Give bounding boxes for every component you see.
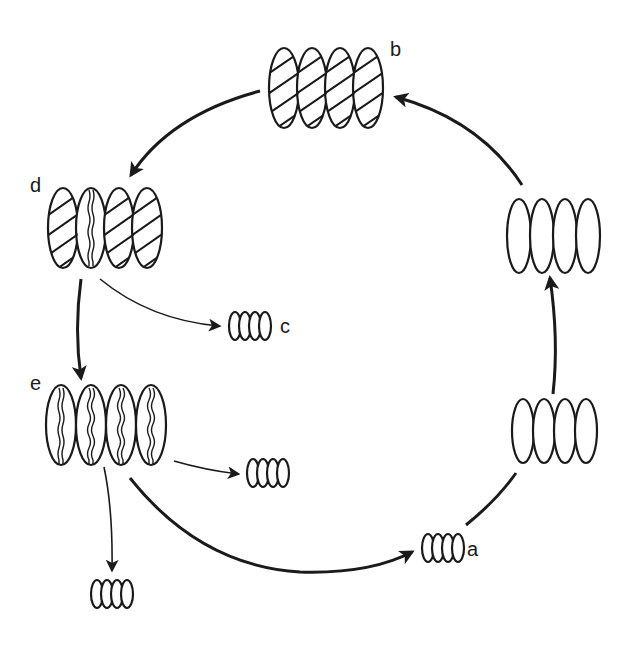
cell <box>48 188 78 268</box>
cell <box>121 580 133 608</box>
colony-growth-2 <box>507 199 600 273</box>
label-d: d <box>30 174 41 196</box>
label-e: e <box>30 372 41 394</box>
label-b: b <box>390 38 401 60</box>
cell <box>533 399 555 463</box>
cell <box>452 534 464 562</box>
arrow-b-to-d <box>131 91 260 175</box>
colony-a: a <box>422 534 479 562</box>
arrow-e-to-offspring-2 <box>104 467 112 570</box>
colony-e-offspring-2 <box>91 580 133 608</box>
arrow-growth-1-to-growth-2 <box>550 278 555 394</box>
cell <box>507 199 531 273</box>
arrow-growth-2-to-b <box>396 97 522 185</box>
arrow-a-to-growth-1 <box>466 473 516 525</box>
arrow-e-to-offspring-1 <box>174 461 238 474</box>
colony-c: c <box>229 312 290 340</box>
label-a: a <box>467 538 479 560</box>
colony-e: e <box>30 372 166 465</box>
cell <box>46 385 76 465</box>
cell <box>554 399 576 463</box>
cell <box>512 399 534 463</box>
life-cycle-diagram: b d c e <box>0 0 633 648</box>
cell <box>553 199 577 273</box>
arrow-e-to-a <box>130 478 412 572</box>
colony-d: d <box>30 174 168 278</box>
cell <box>576 199 600 273</box>
arrow-d-to-c <box>100 279 219 326</box>
cell <box>575 399 597 463</box>
cell <box>530 199 554 273</box>
cell <box>76 188 106 268</box>
label-c: c <box>280 315 290 337</box>
colony-e-offspring-1 <box>247 459 289 487</box>
cell <box>104 188 134 268</box>
cell <box>132 188 162 268</box>
colony-b: b <box>262 38 401 138</box>
colony-growth-1 <box>512 399 597 463</box>
cell <box>259 312 271 340</box>
arrow-d-to-e <box>78 279 82 378</box>
cell <box>277 459 289 487</box>
